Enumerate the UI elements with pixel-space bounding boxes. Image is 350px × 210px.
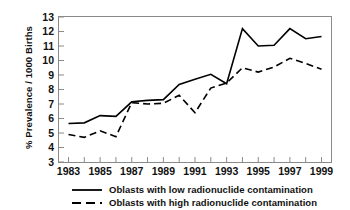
- chart-figure: % Prevalence / 1000 Births 3456789101112…: [0, 0, 350, 210]
- chart-legend: Oblasts with low radionuclide contaminat…: [0, 183, 350, 209]
- legend-item: Oblasts with low radionuclide contaminat…: [0, 183, 350, 196]
- x-tick-label: 1999: [300, 166, 344, 177]
- legend-label: Oblasts with high radionuclide contamina…: [109, 197, 317, 208]
- x-axis-tick-labels: 198319851987198919911993199519971999: [0, 0, 350, 210]
- legend-label: Oblasts with low radionuclide contaminat…: [109, 184, 313, 195]
- legend-line-swatch-solid: [72, 185, 102, 195]
- legend-item: Oblasts with high radionuclide contamina…: [0, 196, 350, 209]
- legend-line-swatch-dashed: [72, 198, 102, 208]
